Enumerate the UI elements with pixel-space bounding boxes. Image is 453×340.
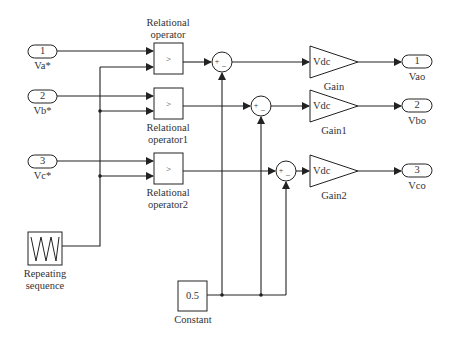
inport1-number[interactable]: 1 [28, 45, 57, 57]
constant-value[interactable]: 0.5 [178, 290, 207, 302]
relational-operator2-symbol[interactable]: > [154, 163, 183, 175]
sum2-minus-sign: _ [284, 167, 292, 179]
outport1-label: Vao [402, 71, 432, 83]
sum-minus-sign: _ [220, 58, 228, 70]
inport2-number[interactable]: 2 [28, 90, 57, 102]
relational-operator-label-1: Relational [138, 17, 198, 29]
inport2-label: Vb* [28, 105, 57, 117]
relational-operator-label-2: operator [138, 29, 198, 41]
gain1-value[interactable]: Vdc [313, 100, 337, 112]
gain-value[interactable]: Vdc [313, 56, 337, 68]
constant-label: Constant [167, 314, 219, 326]
repeating-sequence-label-2: sequence [15, 280, 75, 292]
relational-operator2-label-2: operator2 [138, 199, 198, 211]
gain2-label: Gain2 [314, 190, 354, 202]
gain1-label: Gain1 [314, 125, 354, 137]
relational-operator1-symbol[interactable]: > [154, 98, 183, 110]
repeating-sequence-label-1: Repeating [15, 268, 75, 280]
inport3-number[interactable]: 3 [28, 155, 57, 167]
outport2-label: Vbo [402, 115, 432, 127]
inport1-label: Va* [28, 60, 57, 72]
outport1-number[interactable]: 1 [402, 55, 432, 67]
relational-operator2-label-1: Relational [138, 187, 198, 199]
inport3-label: Vc* [28, 170, 57, 182]
gain2-value[interactable]: Vdc [313, 165, 337, 177]
relational-operator-symbol[interactable]: > [154, 53, 183, 65]
outport2-number[interactable]: 2 [402, 99, 432, 111]
sum1-minus-sign: _ [259, 102, 267, 114]
relational-operator1-label-2: operator1 [138, 134, 198, 146]
outport3-label: Vco [402, 180, 432, 192]
outport3-number[interactable]: 3 [402, 164, 432, 176]
relational-operator1-label-1: Relational [138, 122, 198, 134]
gain-label: Gain [314, 81, 354, 93]
